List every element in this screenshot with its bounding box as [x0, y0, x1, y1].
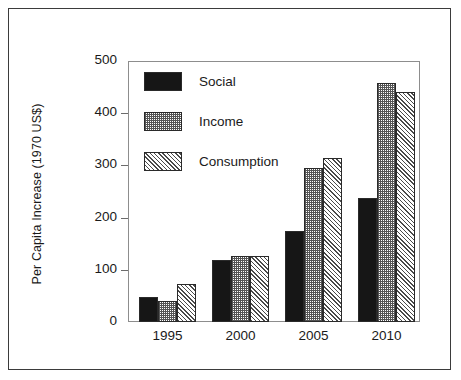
y-axis-tick-mark	[121, 113, 128, 114]
bar-income-2010[interactable]	[377, 83, 396, 322]
bar-social-1995[interactable]	[139, 297, 158, 322]
bar-income-2000[interactable]	[231, 256, 250, 322]
bar-consumption-1995[interactable]	[177, 284, 196, 322]
bar-group-2010	[358, 61, 415, 322]
bar-series-container	[128, 61, 420, 322]
y-axis-title: Per Capita Increase (1970 US$)	[30, 84, 44, 304]
bar-income-1995[interactable]	[158, 301, 177, 322]
y-axis-tick-mark	[121, 165, 128, 166]
bar-group-2005	[285, 61, 342, 322]
y-axis-tick-label: 300	[94, 156, 117, 171]
bar-group-2000	[212, 61, 269, 322]
bar-consumption-2010[interactable]	[396, 92, 415, 322]
y-axis-tick-label: 200	[94, 209, 117, 224]
bar-group-1995	[139, 61, 196, 322]
y-axis-tick-label: 400	[94, 104, 117, 119]
figure-frame: Per Capita Increase (1970 US$) 010020030…	[8, 8, 451, 370]
bar-consumption-2000[interactable]	[250, 256, 269, 322]
bar-income-2005[interactable]	[304, 168, 323, 322]
bar-social-2005[interactable]	[285, 231, 304, 322]
x-axis-label-2010: 2010	[338, 328, 435, 343]
bar-consumption-2005[interactable]	[323, 158, 342, 322]
y-axis-tick-label: 0	[109, 313, 117, 328]
y-axis-tick-mark	[121, 218, 128, 219]
bar-social-2000[interactable]	[212, 260, 231, 322]
bar-social-2010[interactable]	[358, 198, 377, 322]
y-axis-tick-label: 500	[94, 52, 117, 67]
y-axis-tick-label: 100	[94, 261, 117, 276]
y-axis-tick-mark	[121, 270, 128, 271]
